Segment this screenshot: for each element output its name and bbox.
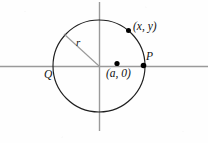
point-p-dot [141, 63, 147, 69]
point-p-label: P [146, 51, 153, 63]
point-a0-dot [114, 61, 119, 66]
center-point-label: (a, 0) [106, 68, 131, 80]
geometry-figure: (x, y) (a, 0) P Q r [0, 0, 208, 143]
point-xy-label: (x, y) [133, 21, 157, 33]
point-q-label: Q [44, 69, 52, 81]
point-xy-dot [126, 28, 131, 33]
diagram-canvas [0, 0, 208, 143]
radius-label: r [76, 37, 80, 48]
radius-line [64, 34, 99, 66]
